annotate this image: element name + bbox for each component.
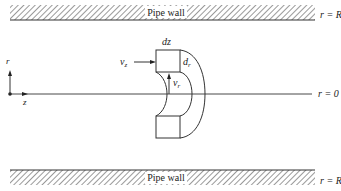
bottom-wall-label: Pipe wall — [147, 172, 185, 183]
r-axis-arrow-icon — [8, 70, 12, 76]
vz-label: vz — [120, 56, 127, 69]
z-axis-label: z — [22, 97, 27, 107]
dz-label: dz — [162, 36, 171, 47]
top-block — [156, 50, 180, 72]
vz-arrowhead-icon — [150, 60, 156, 64]
dr-label: dr — [183, 56, 191, 69]
vr-arrow — [167, 73, 171, 94]
top-pipe-wall: Pipe wall — [10, 5, 315, 20]
r-axis-label: r — [6, 56, 10, 66]
top-boundary-label: r = R — [320, 9, 341, 20]
axes: r z — [6, 56, 28, 107]
bottom-pipe-wall: Pipe wall — [10, 170, 315, 185]
vz-arrow — [134, 60, 156, 64]
bottom-boundary-label: r = R — [320, 175, 341, 186]
pipe-flow-diagram: Pipe wall r = R Pipe wall r = R r = 0 r … — [0, 0, 341, 191]
top-wall-label: Pipe wall — [147, 7, 185, 18]
bottom-block — [156, 116, 180, 138]
z-axis-arrow-icon — [22, 92, 28, 96]
centerline-label: r = 0 — [318, 88, 339, 99]
vr-label: vr — [173, 77, 180, 90]
vr-arrowhead-icon — [167, 73, 171, 79]
